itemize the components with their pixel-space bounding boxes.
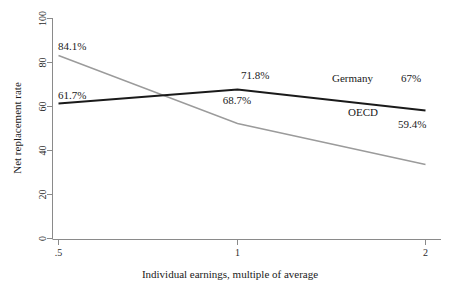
data-label-oecd-start: 84.1% (58, 40, 86, 52)
y-axis-title: Net replacement rate (11, 82, 23, 174)
data-label-germany-end: 67% (401, 72, 421, 84)
x-tick-label-0.5: .5 (55, 247, 63, 258)
net-replacement-rate-line-chart: 100 80 60 40 20 0 Net replacement rate .… (0, 0, 449, 286)
y-tick-label-60: 60 (37, 102, 48, 112)
y-tick-label-100: 100 (37, 11, 48, 26)
x-axis-title: Individual earnings, multiple of average (142, 268, 318, 280)
y-tick-label-20: 20 (37, 190, 48, 200)
x-tick-label-2: 2 (423, 247, 428, 258)
x-tick-label-1: 1 (235, 247, 240, 258)
series-label-oecd: OECD (348, 106, 378, 118)
chart-container: 100 80 60 40 20 0 Net replacement rate .… (0, 0, 449, 286)
data-label-germany-mid: 71.8% (241, 69, 269, 81)
y-tick-label-0: 0 (37, 236, 48, 241)
y-tick-label-40: 40 (37, 146, 48, 156)
y-tick-label-80: 80 (37, 58, 48, 68)
data-label-oecd-end: 59.4% (398, 118, 426, 130)
series-label-germany: Germany (332, 72, 373, 84)
data-label-oecd-mid: 68.7% (223, 94, 251, 106)
data-label-germany-start: 61.7% (58, 89, 86, 101)
